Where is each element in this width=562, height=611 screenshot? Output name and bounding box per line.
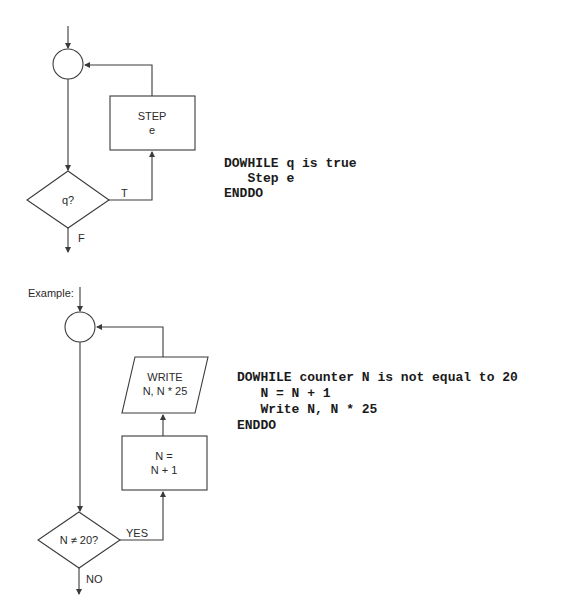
loop-back-arrow bbox=[97, 327, 163, 357]
pseudocode-line: ENDDO bbox=[224, 186, 263, 201]
connector-circle bbox=[65, 312, 95, 342]
io-line2: N, N * 25 bbox=[143, 385, 188, 397]
example-caption: Example: bbox=[28, 287, 74, 299]
yes-label: YES bbox=[126, 527, 148, 539]
pseudocode-line: Write N, N * 25 bbox=[237, 402, 378, 417]
pseudocode-line: DOWHILE q is true bbox=[224, 156, 357, 171]
process-box bbox=[110, 96, 195, 150]
flowchart-canvas: q? T STEP e F DOWHILE q is true Step e E… bbox=[0, 0, 562, 611]
true-label: T bbox=[121, 187, 128, 199]
no-label: NO bbox=[86, 573, 103, 585]
pseudocode-line: ENDDO bbox=[237, 418, 276, 433]
pseudocode-line: DOWHILE counter N is not equal to 20 bbox=[237, 370, 518, 385]
connector-circle bbox=[53, 49, 83, 79]
pseudocode-line: N = N + 1 bbox=[237, 386, 331, 401]
process-line2: N + 1 bbox=[151, 464, 178, 476]
false-label: F bbox=[78, 232, 85, 244]
true-branch-arrow bbox=[109, 152, 152, 200]
process-line1: N = bbox=[155, 450, 172, 462]
increment-process-box bbox=[122, 436, 207, 490]
loop-back-arrow bbox=[85, 65, 152, 96]
process-line2: e bbox=[149, 124, 155, 136]
dowhile-general-diagram: q? T STEP e F DOWHILE q is true Step e E… bbox=[27, 26, 357, 252]
decision-label: q? bbox=[62, 194, 74, 206]
io-line1: WRITE bbox=[147, 371, 182, 383]
process-line1: STEP bbox=[138, 110, 167, 122]
decision-label: N ≠ 20? bbox=[60, 534, 98, 546]
dowhile-example-diagram: Example: N ≠ 20? YES N = N + 1 WRITE N, … bbox=[28, 287, 518, 594]
pseudocode-line: Step e bbox=[224, 171, 294, 186]
